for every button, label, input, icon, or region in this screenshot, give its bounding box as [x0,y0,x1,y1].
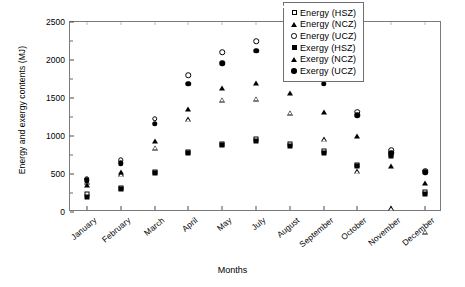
data-point [152,145,158,150]
x-tick-mark [256,206,257,210]
legend-marker-icon [288,45,300,50]
x-tick-mark [86,206,87,210]
data-point [253,80,259,85]
data-point [423,191,428,196]
plot-inner [70,22,440,210]
x-tick-label: February [100,215,132,245]
data-point [152,121,158,127]
legend-item[interactable]: Exergy (HSZ) [288,42,357,54]
data-point [84,177,90,183]
x-axis-title: Months [0,265,465,275]
x-tick-mark-top [425,22,426,25]
data-point [287,110,293,115]
x-tick-mark [357,206,358,210]
data-point [219,86,225,91]
x-tick-label: May [215,215,234,233]
y-tick-mark [70,22,74,23]
x-tick-label: November [366,215,402,248]
data-point [287,91,293,96]
data-point [152,171,157,176]
data-point [354,169,360,174]
legend-item[interactable]: Energy (NCZ) [288,19,357,31]
x-tick-label: August [275,215,302,240]
data-point [254,138,259,143]
y-tick-label: 1000 [46,131,70,141]
data-point [253,38,259,44]
x-tick-label: April [180,215,200,234]
x-tick-mark [323,206,324,210]
chart-legend: Energy (HSZ)Energy (NCZ)Energy (UCZ)Exer… [283,2,364,82]
data-point [186,150,191,155]
y-minor-tick [70,79,73,80]
y-tick-label: 1500 [46,93,70,103]
y-tick-mark [70,60,74,61]
legend-marker-icon [288,10,300,15]
data-point [388,164,394,169]
y-tick-label: 0 [60,207,70,217]
data-point [220,143,225,148]
y-axis-title: Energy and exergy contents (MJ) [17,25,27,195]
legend-label: Energy (NCZ) [300,19,357,29]
legend-item[interactable]: Exergy (UCZ) [288,65,357,77]
x-tick-mark [120,206,121,210]
x-tick-mark [154,206,155,210]
data-point [321,150,326,155]
legend-label: Exergy (HSZ) [300,43,356,53]
y-minor-tick [70,117,73,118]
data-point [287,143,292,148]
data-point [118,161,124,167]
legend-marker-icon [288,68,300,74]
y-minor-tick [70,41,73,42]
x-tick-mark [425,206,426,210]
data-point [219,97,225,102]
plot-area: 05001000150020002500 [69,21,441,211]
data-point [118,170,124,175]
x-tick-mark [188,206,189,210]
legend-item[interactable]: Energy (UCZ) [288,30,357,42]
data-point [422,170,428,176]
data-point [354,134,360,139]
data-point [185,117,191,122]
x-tick-label: January [69,215,99,242]
data-point [422,181,428,186]
data-point [219,50,225,56]
x-tick-mark-top [154,22,155,25]
x-tick-label: October [339,215,369,242]
x-tick-mark-top [86,22,87,25]
x-tick-mark [222,206,223,210]
x-tick-mark-top [256,22,257,25]
data-point [253,48,259,54]
legend-label: Energy (UCZ) [300,31,357,41]
y-tick-mark [70,98,74,99]
data-point [355,164,360,169]
data-point [253,96,259,101]
legend-marker-icon [288,57,300,62]
y-tick-mark [70,136,74,137]
y-minor-tick [70,193,73,194]
x-tick-label: July [249,215,267,232]
data-point [389,150,395,156]
data-point [186,81,192,87]
legend-label: Energy (HSZ) [300,8,356,18]
x-tick-label: September [297,215,335,249]
x-tick-label: December [400,215,436,248]
legend-marker-icon [288,22,300,27]
data-point [321,137,327,142]
y-tick-label: 2000 [46,55,70,65]
legend-marker-icon [288,33,300,39]
x-tick-label: March [141,215,165,238]
data-point [84,194,89,199]
x-tick-mark-top [120,22,121,25]
x-tick-mark-top [222,22,223,25]
data-point [84,182,90,187]
data-point [186,72,192,78]
data-point [388,206,394,211]
legend-item[interactable]: Exergy (NCZ) [288,53,357,65]
data-point [152,139,158,144]
y-tick-mark [70,174,74,175]
y-minor-tick [70,155,73,156]
data-point [118,187,123,192]
legend-item[interactable]: Energy (HSZ) [288,7,357,19]
data-point [219,60,225,66]
legend-label: Exergy (NCZ) [300,54,356,64]
